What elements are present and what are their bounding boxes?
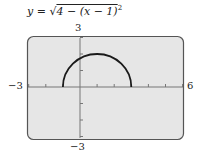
plot-area <box>0 0 199 156</box>
screen-frame <box>28 37 184 140</box>
